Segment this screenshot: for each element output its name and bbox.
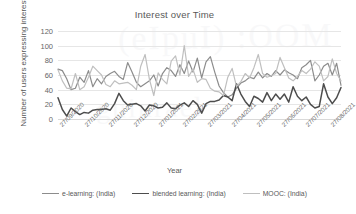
chart-legend: e-learning: (India)blended learning: (In… — [0, 190, 349, 197]
y-tick-label: 80 — [29, 56, 53, 65]
y-tick-label: 120 — [29, 27, 53, 36]
y-tick-label: 40 — [29, 86, 53, 95]
legend-color-swatch — [132, 193, 149, 194]
y-tick-label: 100 — [29, 42, 53, 51]
chart-title: Interest over Time — [0, 9, 349, 20]
legend-item[interactable]: MOOC: (India) — [243, 190, 307, 197]
y-tick-label: 20 — [29, 100, 53, 109]
y-tick-label: 0 — [29, 115, 53, 124]
legend-label: e-learning: (India) — [62, 190, 115, 197]
gridline — [58, 119, 341, 120]
y-axis-title: Number of users expressing interest — [19, 0, 28, 138]
series-line — [58, 57, 341, 97]
legend-color-swatch — [243, 193, 260, 194]
legend-item[interactable]: e-learning: (India) — [42, 190, 115, 197]
legend-color-swatch — [42, 193, 59, 194]
y-tick-label: 60 — [29, 71, 53, 80]
legend-item[interactable]: blended learning: (India) — [132, 190, 225, 197]
legend-label: MOOC: (India) — [263, 190, 307, 197]
legend-label: blended learning: (India) — [152, 190, 225, 197]
x-axis-title: Year — [0, 166, 349, 175]
